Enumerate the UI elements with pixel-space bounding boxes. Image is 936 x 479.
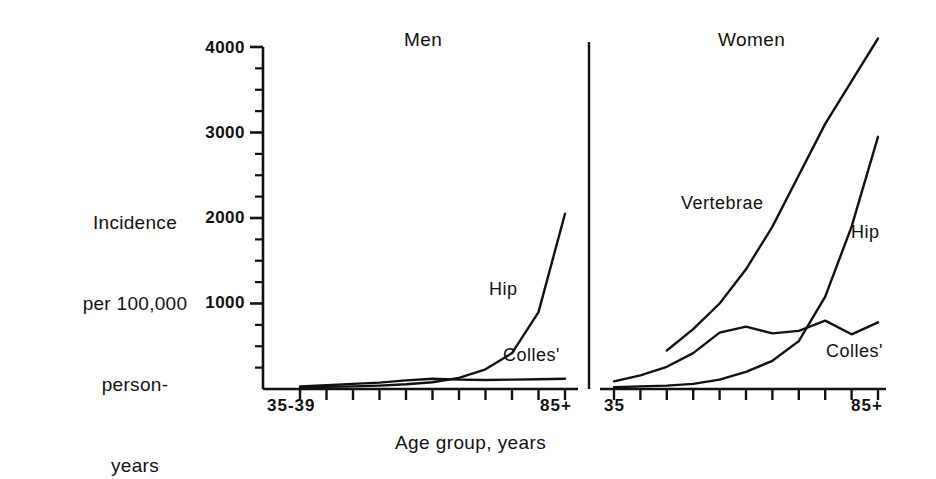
x-tick-marks [300,389,878,400]
plot-canvas [0,0,936,479]
y-tick-marks [250,47,263,368]
curve-men-hip [300,214,565,388]
curve-women-hip [614,137,878,387]
figure-osteoporotic-fracture-incidence: Incidence per 100,000 person- years 4000… [0,0,936,479]
curve-women-vertebrae [667,39,878,351]
